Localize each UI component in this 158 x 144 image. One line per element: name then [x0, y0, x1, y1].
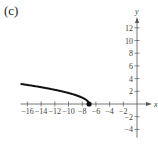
y-tick-label: 4 — [129, 75, 133, 84]
x-tick-label: −16 — [21, 107, 34, 116]
y-tick-label: 8 — [129, 49, 133, 58]
x-tick-label: −10 — [62, 107, 75, 116]
endpoint-dot-icon — [86, 101, 91, 106]
y-tick-label: −4 — [124, 125, 133, 134]
y-tick-label: 6 — [129, 62, 133, 71]
y-axis-label: y — [134, 7, 139, 16]
y-tick-label: 10 — [125, 37, 133, 46]
y-tick-label: 2 — [129, 87, 133, 96]
x-tick-label: −12 — [49, 107, 62, 116]
x-axis-label: x — [153, 100, 158, 109]
x-tick-label: −4 — [105, 107, 114, 116]
x-tick-label: −8 — [78, 107, 87, 116]
x-tick-label: −6 — [92, 107, 101, 116]
x-tick-label: −14 — [35, 107, 48, 116]
chart-plot: xy−16−14−12−10−8−6−4−212108642−2−4 — [0, 0, 158, 144]
y-tick-label: −2 — [124, 113, 133, 122]
x-axis-arrow-icon — [146, 102, 152, 106]
curve-line — [21, 84, 90, 104]
y-tick-label: 12 — [125, 24, 133, 33]
y-axis-arrow-icon — [135, 17, 139, 23]
